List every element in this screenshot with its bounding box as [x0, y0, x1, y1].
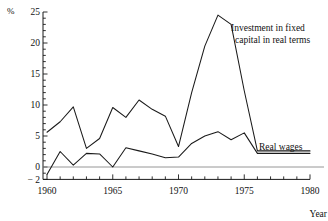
y-tick-label: 0: [35, 162, 40, 172]
y-tick-label: 20: [31, 38, 41, 48]
x-tick-label: 1970: [169, 186, 188, 196]
x-axis-title: Year: [309, 209, 327, 219]
y-tick-label: − 2: [28, 175, 41, 185]
y-tick-label: 5: [35, 131, 40, 141]
x-tick-label: 1980: [301, 186, 320, 196]
y-axis-unit-label: %: [7, 6, 15, 16]
chart-figure: − 20510152025 19601965197019751980 % Yea…: [0, 0, 328, 221]
investment-series-label-line1: Investment in fixed: [231, 23, 305, 33]
investment-series-label-line2: capital in real terms: [235, 35, 310, 45]
y-tick-label: 15: [31, 69, 41, 79]
x-tick-label: 1975: [235, 186, 254, 196]
real-wages-series-label: Real wages: [259, 142, 303, 152]
x-tick-label: 1965: [103, 186, 122, 196]
y-tick-label: 10: [31, 100, 41, 110]
y-tick-label: 25: [31, 7, 41, 17]
x-tick-label: 1960: [38, 186, 57, 196]
line-chart: − 20510152025 19601965197019751980 % Yea…: [0, 0, 328, 221]
